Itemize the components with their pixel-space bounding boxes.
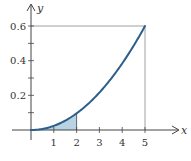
x-tick-label: 2 (73, 137, 79, 148)
x-tick-label: 5 (142, 137, 148, 148)
y-axis-label: y (36, 2, 44, 15)
y-tick-label: 0.6 (10, 21, 26, 32)
y-tick-label: 0.4 (10, 55, 26, 66)
chart: 123450.20.40.6 x y (0, 0, 191, 161)
reference-lines (31, 26, 145, 130)
x-tick-label: 1 (51, 137, 57, 148)
y-tick-label: 0.2 (10, 90, 26, 101)
curve-path (31, 26, 145, 130)
x-tick-label: 3 (96, 137, 102, 148)
curve-line (31, 26, 145, 130)
x-axis-label: x (181, 124, 188, 137)
x-tick-label: 4 (119, 137, 125, 148)
axes (12, 4, 179, 140)
